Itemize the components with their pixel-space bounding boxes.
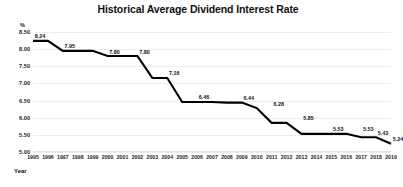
x-axis-tick-label: 2000 [102,154,114,160]
y-axis-tick-label: 6.50 [19,98,30,104]
x-axis-tick-label: 2004 [161,154,173,160]
data-point-label: 5.53 [363,126,374,132]
data-point-label: 7.16 [169,70,180,76]
x-axis-tick-label: 2013 [296,154,308,160]
x-axis-tick-label: 2001 [117,154,129,160]
data-point-label: 5.43 [378,130,389,136]
x-axis-tick-label: 2011 [266,154,277,160]
x-axis-tick-label: 2005 [176,154,188,160]
x-axis-tick-label: 2002 [132,154,144,160]
data-series-line [33,32,391,152]
data-point-label: 7.80 [139,49,150,55]
y-axis-tick-label: 5.50 [19,132,30,138]
x-axis-tick-label: 2007 [206,154,218,160]
y-axis-tick-label: 6.00 [19,115,30,121]
data-point-label: 5.85 [303,115,314,121]
x-axis-tick-label: 2015 [326,154,338,160]
data-point-label: 6.44 [244,95,255,101]
x-axis-tick-label: 1998 [72,154,84,160]
y-axis-tick-label: 8.50 [19,29,30,35]
y-axis-tick-label: 7.00 [19,80,30,86]
y-axis-tick-label: 7.50 [19,63,30,69]
x-axis-tick-label: 1996 [42,154,54,160]
x-axis-tick-label: 1995 [27,154,39,160]
x-axis-tick-label: 2019 [385,154,397,160]
x-axis-tick-label: 2012 [281,154,293,160]
x-axis-tick-label: 2006 [191,154,203,160]
chart-title: Historical Average Dividend Interest Rat… [0,3,396,15]
x-axis-tick-label: 2014 [311,154,323,160]
x-axis-tick-label: 2018 [370,154,382,160]
data-point-label: 6.28 [273,101,284,107]
x-axis-title: Year [14,168,27,174]
y-axis-tick-label: 8.00 [19,46,30,52]
data-point-label: 6.46 [199,94,210,100]
x-axis-tick-label: 2016 [340,154,352,160]
y-axis-unit-label: % [20,22,25,28]
data-point-label: 7.80 [109,49,120,55]
plot-area: 8.508.007.507.006.506.005.505.00 8.247.9… [33,32,391,152]
x-axis-tick-label: 2008 [221,154,233,160]
x-axis-tick-label: 1997 [57,154,69,160]
gridline [33,152,391,153]
data-point-label: 5.24 [393,136,403,142]
data-point-label: 8.24 [35,33,46,39]
x-axis-tick-label: 2009 [236,154,248,160]
x-axis-tick-label: 1999 [87,154,99,160]
data-point-label: 7.95 [65,43,76,49]
data-point-label: 5.53 [333,126,344,132]
x-axis-tick-label: 2017 [355,154,367,160]
x-axis-tick-label: 2003 [147,154,159,160]
x-axis-tick-label: 2010 [251,154,263,160]
